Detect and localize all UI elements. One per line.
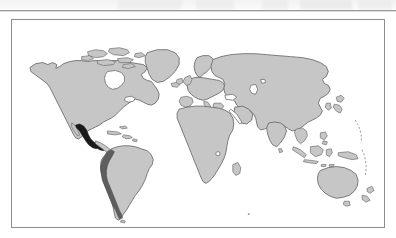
page-horizontal-rule-shadow [0,11,396,12]
map-frame: .land { fill: #c6c6c6; stroke: #6e6e6e; … [11,19,385,228]
region-sri-lanka [279,149,283,153]
world-map: .land { fill: #c6c6c6; stroke: #6e6e6e; … [12,20,384,227]
southern-island-dot [248,213,250,215]
figure-root: .land { fill: #c6c6c6; stroke: #6e6e6e; … [0,0,396,238]
scan-noise-band [0,0,396,10]
figure-caption [11,230,385,238]
